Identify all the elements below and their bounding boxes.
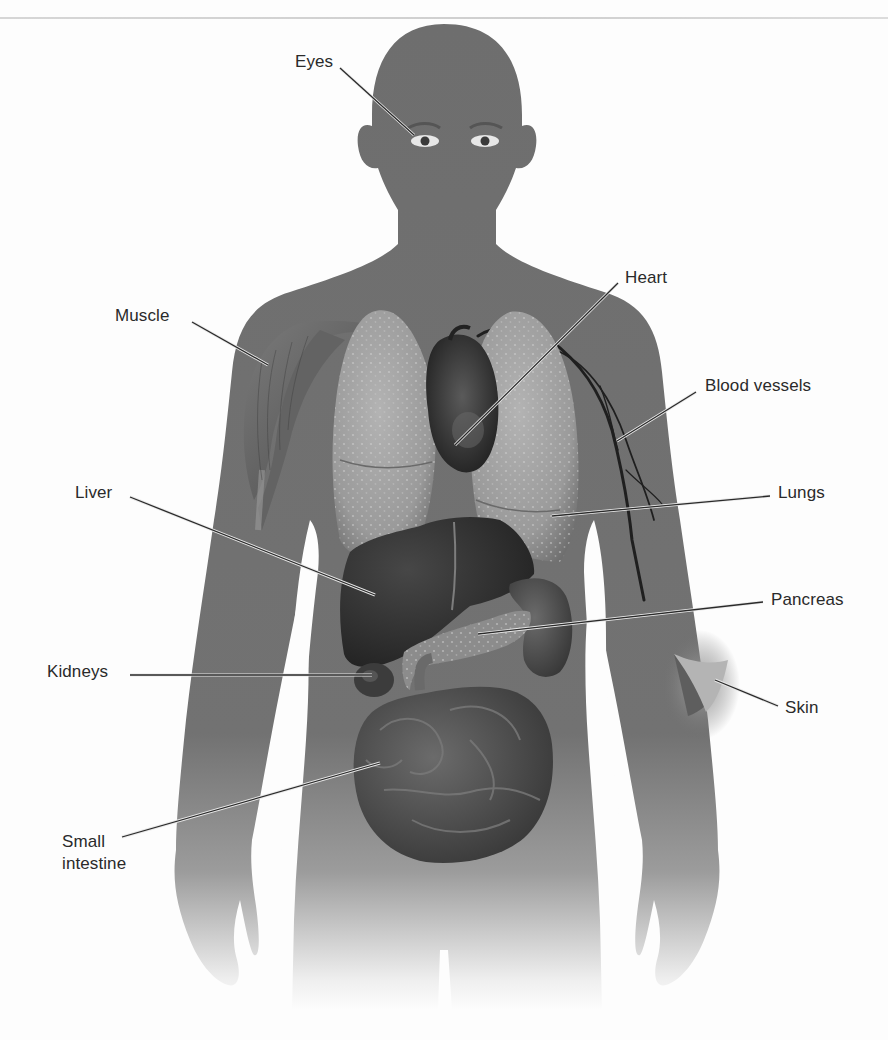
label-muscle: Muscle xyxy=(115,306,169,326)
label-heart: Heart xyxy=(625,268,667,288)
label-small-intestine: Small intestine xyxy=(62,831,126,875)
diagram-page: Eyes Muscle Heart Blood vessels Liver Lu… xyxy=(0,0,888,1040)
label-kidneys: Kidneys xyxy=(47,662,108,682)
label-lungs: Lungs xyxy=(778,483,825,503)
label-blood-vessels: Blood vessels xyxy=(705,376,811,396)
body-figure xyxy=(0,0,888,1040)
label-liver: Liver xyxy=(75,483,112,503)
label-skin: Skin xyxy=(785,698,818,718)
label-eyes: Eyes xyxy=(295,52,333,72)
label-pancreas: Pancreas xyxy=(771,590,844,610)
